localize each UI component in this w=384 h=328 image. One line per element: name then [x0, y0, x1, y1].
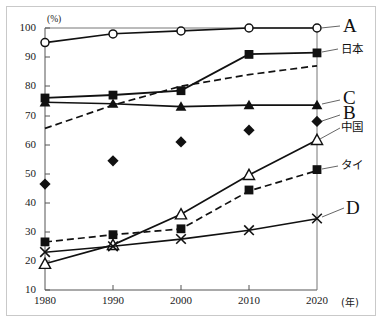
- series-china: [39, 128, 340, 268]
- series-japan: [41, 49, 338, 103]
- x-axis-ticks: [113, 285, 249, 290]
- series-c: [40, 97, 340, 111]
- y-tick-50: 50: [14, 167, 36, 179]
- series-d: [40, 208, 344, 257]
- y-tick-80: 80: [14, 79, 36, 91]
- series-thailand: [41, 165, 338, 246]
- x-tick-2010: 2010: [229, 294, 269, 306]
- figure-caption: [10, 318, 310, 327]
- x-tick-1990: 1990: [93, 294, 133, 306]
- series-b: [39, 66, 340, 190]
- y-tick-100: 100: [14, 21, 36, 33]
- x-tick-1980: 1980: [25, 294, 65, 306]
- x-axis-unit: (年): [341, 294, 359, 309]
- y-tick-40: 40: [14, 196, 36, 208]
- series-label-thailand: タイ: [341, 159, 363, 171]
- y-tick-60: 60: [14, 138, 36, 150]
- y-tick-20: 20: [14, 254, 36, 266]
- x-tick-2020: 2020: [297, 294, 337, 306]
- series-label-china: 中国: [341, 121, 363, 133]
- series-label-japan: 日本: [341, 43, 363, 55]
- series-a: [41, 24, 340, 47]
- axis-lines: [45, 28, 317, 290]
- y-tick-70: 70: [14, 109, 36, 121]
- series-label-a: A: [343, 16, 357, 35]
- chart-plot-area: [0, 0, 384, 328]
- y-axis-unit: (%): [47, 14, 61, 24]
- y-tick-30: 30: [14, 225, 36, 237]
- series-label-c: C: [343, 88, 356, 107]
- series-label-d: D: [346, 198, 360, 217]
- x-tick-2000: 2000: [161, 294, 201, 306]
- y-tick-90: 90: [14, 50, 36, 62]
- chart-figure: 100 90 80 70 60 50 40 30 20 10 (%) 1980 …: [0, 0, 384, 328]
